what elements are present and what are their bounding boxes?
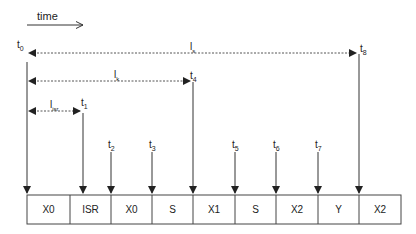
marker-label-t4: t4 (190, 70, 197, 83)
span-label-ls: ls (190, 41, 195, 54)
marker-label-t1: t1 (81, 97, 88, 110)
segment-label: Y (335, 204, 342, 215)
segment-label: S (252, 204, 259, 215)
time-axis: time (27, 10, 83, 25)
time-label: time (37, 10, 58, 22)
segment-label: X0 (125, 204, 138, 215)
segment-label: X2 (291, 204, 304, 215)
marker-label-t0: t0 (17, 39, 24, 52)
timing-diagram: time t0 t1 t2 t3 t4 t5 t6 t7 t8 (0, 0, 416, 234)
segment-row: X0 ISR X0 S X1 S X2 Y X2 (27, 195, 401, 224)
segment-label: S (169, 204, 176, 215)
marker-label-t8: t8 (360, 43, 367, 56)
segment-label: ISR (82, 204, 99, 215)
marker-lines (27, 54, 359, 193)
marker-label-t5: t5 (232, 139, 239, 152)
span-ls-left-arrow-icon (28, 49, 36, 57)
marker-label-t3: t3 (149, 139, 156, 152)
span-lk-left-arrow-icon (28, 77, 36, 85)
span-label-lisr: lisr (50, 99, 59, 112)
span-lisr-left-arrow-icon (28, 107, 36, 115)
marker-label-t7: t7 (315, 139, 322, 152)
segment-label: X0 (42, 204, 55, 215)
marker-label-t2: t2 (108, 139, 115, 152)
segment-label: X1 (208, 204, 221, 215)
span-label-lk: lk (114, 69, 120, 82)
marker-labels: t0 t1 t2 t3 t4 t5 t6 t7 t8 (17, 39, 367, 152)
marker-label-t6: t6 (273, 139, 280, 152)
segment-label: X2 (374, 204, 387, 215)
